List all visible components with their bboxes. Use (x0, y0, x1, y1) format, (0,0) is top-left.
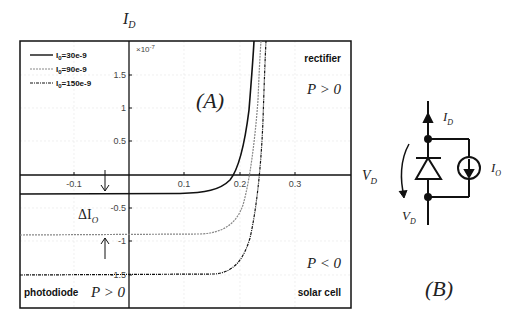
svg-text:ΔIO: ΔIO (78, 207, 99, 225)
circuit-source-label: IO (490, 160, 501, 178)
y-tick-label: 1.5 (113, 70, 126, 80)
y-tick-label: 1 (121, 103, 126, 113)
legend-entry: I0=150e-9 (56, 79, 92, 89)
delta-io-annotation: ΔIO (78, 170, 109, 259)
region-power-rectifier: P > 0 (306, 81, 342, 97)
legend: I0=30e-9 I0=90e-9 I0=150e-9 (30, 51, 92, 89)
y-tick-label: -1 (118, 236, 126, 246)
region-label-rectifier: rectifier (304, 53, 341, 64)
x-tick-label: 0.1 (178, 179, 191, 189)
figure: -0.1 0.1 0.2 0.3 1.5 1 0.5 -0.5 -1 -1.5 … (0, 0, 521, 322)
circuit-voltage-label: VD (402, 208, 416, 226)
legend-entry: I0=30e-9 (56, 51, 87, 61)
y-scale-label: ×10-7 (136, 44, 156, 54)
region-label-solar-cell: solar cell (298, 287, 342, 298)
panel-label-a: (A) (196, 88, 224, 113)
x-tick-label: 0.2 (234, 179, 247, 189)
y-tick-label: -0.5 (110, 203, 126, 213)
legend-entry: I0=90e-9 (56, 65, 87, 75)
region-power-solar: P < 0 (306, 255, 342, 271)
circuit-diagram (399, 101, 480, 225)
circuit-current-label: ID (442, 109, 453, 127)
panel-label-b: (B) (425, 276, 453, 301)
x-axis-label: VD (362, 168, 378, 186)
y-tick-label: 0.5 (113, 136, 126, 146)
region-power-photodiode: P > 0 (90, 284, 126, 300)
x-tick-label: -0.1 (66, 179, 82, 189)
region-label-photodiode: photodiode (24, 287, 79, 298)
curve-i0-30e-9 (20, 41, 254, 194)
x-tick-label: 0.3 (289, 179, 302, 189)
y-axis-label: ID (122, 10, 136, 30)
curve-i0-150e-9 (20, 41, 266, 275)
